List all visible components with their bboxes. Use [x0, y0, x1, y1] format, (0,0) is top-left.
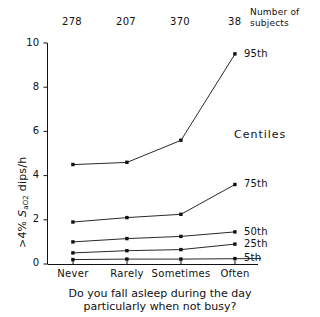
series-markers-75th: [71, 183, 236, 224]
x-tick-rarely: Rarely: [102, 268, 152, 279]
x-axis-title: Do you fall asleep during the day partic…: [35, 287, 285, 313]
series-label-75th: 75th: [244, 178, 268, 189]
series-line-25th: [73, 244, 235, 253]
series-line-50th: [73, 232, 235, 242]
y-tick-marks: [44, 43, 48, 264]
series-markers-25th: [71, 242, 236, 254]
x-axis-title-line2: particularly when not busy?: [35, 300, 285, 313]
series-line-95th: [73, 54, 235, 165]
x-tick-sometimes: Sometimes: [151, 268, 211, 279]
series-label-25th: 25th: [244, 238, 268, 249]
x-axis-title-line1: Do you fall asleep during the day: [35, 287, 285, 300]
centiles-annotation: Centiles: [234, 128, 286, 141]
x-tick-often: Often: [211, 268, 259, 279]
series-line-5th: [73, 259, 261, 260]
series-markers-95th: [71, 52, 236, 166]
series-label-5th: 5th: [244, 252, 261, 263]
series-markers-50th: [71, 230, 236, 243]
x-tick-marks: [73, 261, 235, 265]
series-label-50th: 50th: [244, 226, 268, 237]
series-label-95th: 95th: [244, 48, 268, 59]
series-line-75th: [73, 185, 235, 223]
chart-figure: 278 207 370 38 Number of subjects 10 8 6…: [0, 0, 320, 317]
x-tick-never: Never: [48, 268, 98, 279]
